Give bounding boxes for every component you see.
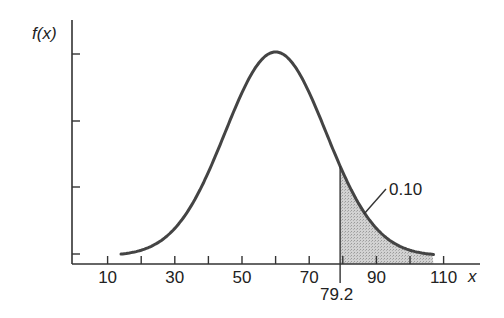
area-leader-line — [364, 189, 386, 214]
x-axis-tick-labels: 1030507090110 — [98, 268, 457, 287]
x-tick-label: 110 — [430, 268, 457, 287]
y-axis-ticks — [72, 54, 80, 254]
normal-distribution-chart: 1030507090110 f(x) x 79.2 0.10 — [0, 0, 504, 318]
x-tick-label: 30 — [165, 268, 184, 287]
x-tick-label: 50 — [233, 268, 252, 287]
density-curve — [121, 52, 434, 255]
x-tick-label: 70 — [300, 268, 319, 287]
x-tick-label: 90 — [367, 268, 386, 287]
area-value-label: 0.10 — [389, 180, 422, 199]
x-tick-label: 10 — [98, 268, 117, 287]
y-axis-label: f(x) — [32, 24, 57, 43]
x-axis-label: x — [467, 267, 477, 286]
cutoff-value-label: 79.2 — [320, 285, 353, 304]
